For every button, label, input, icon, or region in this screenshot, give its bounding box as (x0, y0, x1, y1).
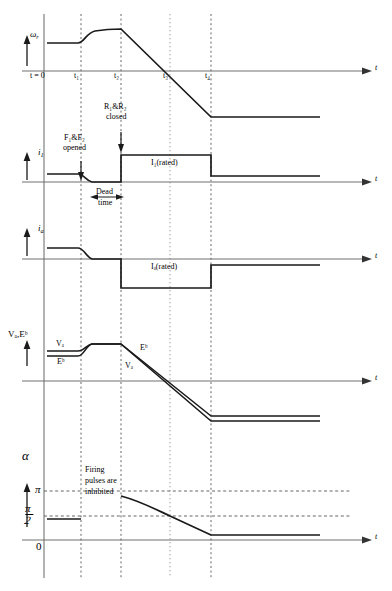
axis-label-armature-current: ia (38, 224, 44, 234)
label-va-mid: Vₐ (125, 362, 133, 370)
annotation-firing-inhibited-line2: pulses are (85, 477, 117, 485)
tick-t1: t₁ (74, 72, 79, 80)
axis-label-voltage: Vₐ,Eᵇ (8, 330, 28, 339)
va-trace (47, 344, 320, 416)
alpha-tick-pi: π (35, 484, 41, 496)
alpha-tick-half-pi: π 2 (24, 503, 32, 526)
annotation-r-closed-line2: closed (106, 113, 126, 121)
annotation-f-opened-line1: F₁&F₂ (64, 134, 85, 142)
speed-trace (47, 29, 320, 117)
tick-t2: t₂ (114, 72, 119, 80)
alpha-trace-main (121, 496, 320, 535)
r-closed-arrow-tip (118, 144, 124, 153)
time-axis-label-ia: t (375, 252, 377, 260)
annotation-firing-inhibited-line1: Firing (85, 466, 105, 474)
eb-trace (47, 344, 320, 421)
time-axis-label-speed: t (375, 64, 377, 72)
label-va-upper: Vₐ (56, 340, 64, 348)
axis-label-speed: ωr (30, 30, 39, 40)
tick-t4: t₄ (205, 72, 210, 80)
ia-trace (47, 248, 320, 288)
waveform-canvas (0, 0, 392, 591)
label-i1-rated: I₁(rated) (151, 159, 178, 167)
half-pi-numerator: π (24, 503, 32, 514)
alpha-tick-zero: 0 (36, 541, 42, 553)
v-axis-arrowhead (362, 378, 372, 385)
annotation-dead-time-line2: time (98, 199, 112, 207)
ia-axis-arrowhead (362, 256, 372, 263)
time-axis-label-voltage: t (375, 374, 377, 382)
i1-axis-arrow-tip (24, 152, 31, 161)
annotation-dead-time-line1: Dead (96, 188, 113, 196)
i1-axis-arrowhead (362, 179, 372, 186)
panel-armature-current (22, 228, 372, 288)
annotation-firing-inhibited-line3: inhibited (85, 488, 113, 496)
label-eb-lower: Eᵇ (57, 358, 64, 366)
dead-time-arrow-right (116, 194, 124, 200)
time-axis-label-alpha: t (375, 533, 377, 541)
alpha-axis-arrow-tip (24, 483, 31, 492)
axis-label-field-current: i1 (38, 148, 44, 158)
label-ia-rated: Iₐ(rated) (151, 263, 177, 271)
label-eb-mid: Eᵇ (140, 344, 147, 352)
time-guides (44, 14, 211, 578)
half-pi-denominator: 2 (23, 514, 34, 526)
i1-trace (47, 155, 320, 182)
alpha-axis-arrowhead (362, 537, 372, 544)
panel-firing-angle (22, 483, 372, 543)
waveform-figure: ωr t = 0 t₁ t₂ t₃ t₄ t R₁&R₂ closed F₁&F… (0, 0, 392, 591)
ia-axis-arrow-tip (24, 228, 31, 237)
annotation-r-closed-line1: R₁&R₂ (104, 103, 126, 111)
time-axis-label-i1: t (375, 175, 377, 183)
v-axis-arrow-tip (24, 340, 31, 349)
speed-axis-arrowhead (362, 68, 372, 75)
panel-voltage (22, 340, 372, 421)
axis-label-firing-angle: α (22, 449, 29, 463)
tick-t0: t = 0 (30, 72, 45, 80)
annotation-f-opened-line2: opened (63, 144, 86, 152)
tick-t3: t₃ (163, 72, 168, 80)
